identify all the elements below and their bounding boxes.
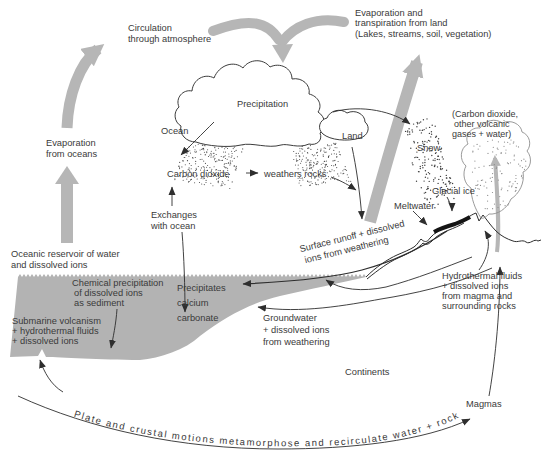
stipple-dot [430, 136, 431, 137]
stipple-dot [211, 154, 212, 155]
arrow-ocean-to-atmosphere [67, 49, 98, 128]
stipple-dot [216, 161, 217, 162]
stipple-dot [343, 173, 344, 174]
stipple-dot [434, 158, 435, 159]
stipple-dot [512, 183, 513, 184]
stipple-dot [320, 149, 321, 150]
stipple-dot [433, 180, 434, 181]
stipple-dot [424, 156, 425, 157]
stipple-dot [224, 148, 225, 149]
stipple-dot [494, 164, 495, 165]
stipple-dot [179, 162, 180, 163]
label-submarine-volcanism: Submarine volcanism [12, 316, 101, 326]
stipple-dot [424, 159, 425, 160]
stipple-dot [299, 159, 300, 160]
stipple-dot [485, 208, 486, 209]
stipple-dot [307, 180, 308, 181]
stipple-dot [299, 180, 300, 181]
stipple-dot [429, 140, 430, 141]
stipple-dot [325, 148, 326, 149]
stipple-dot [345, 166, 346, 167]
stipple-dot [514, 155, 515, 156]
stipple-dot [439, 163, 440, 164]
stipple-dot [449, 181, 450, 182]
stipple-dot [475, 188, 476, 189]
stipple-dot [223, 183, 224, 184]
stipple-dot [225, 155, 226, 156]
stipple-dot [350, 181, 351, 182]
stipple-dot [439, 159, 440, 160]
stipple-dot [473, 145, 474, 146]
stipple-dot [429, 127, 430, 128]
stipple-dot [317, 179, 318, 180]
stipple-dot [409, 134, 410, 135]
stipple-dot [487, 141, 488, 142]
stipple-dot [207, 149, 208, 150]
label-evap-transpiration-3: (Lakes, streams, soil, vegetation) [355, 29, 491, 39]
stipple-dot [419, 130, 420, 131]
stipple-dot [498, 141, 499, 142]
stipple-dot [487, 195, 488, 196]
arrow-hydrothermal-to-vent [479, 231, 488, 270]
stipple-dot [429, 173, 430, 174]
stipple-dot [203, 161, 204, 162]
stipple-dot [227, 159, 228, 160]
stipple-dot [321, 182, 322, 183]
stipple-dot [234, 158, 235, 159]
stipple-dot [496, 167, 497, 168]
arrow-meltwater [413, 211, 427, 225]
stipple-dot [234, 165, 235, 166]
stipple-dot [507, 190, 508, 191]
label-hydrothermal-4: surrounding rocks [442, 301, 516, 311]
stipple-dot [333, 165, 334, 166]
stipple-dot [493, 147, 494, 148]
stipple-dot [313, 155, 314, 156]
stipple-dot [194, 151, 195, 152]
stipple-dot [346, 170, 347, 171]
stipple-dot [422, 129, 423, 130]
stipple-dot [315, 184, 316, 185]
stipple-dot [315, 158, 316, 159]
stipple-dot [221, 156, 222, 157]
stipple-dot [312, 154, 313, 155]
label-oceanic-reservoir-2: and dissolved ions [11, 260, 88, 270]
stipple-dot [515, 191, 516, 192]
stipple-dot [501, 173, 502, 174]
stipple-dot [189, 181, 190, 182]
stipple-dot [437, 141, 438, 142]
stipple-dot [186, 153, 187, 154]
label-land: Land [342, 131, 363, 141]
arrow-atmosphere-branch-right [282, 20, 344, 42]
stipple-dot [200, 149, 201, 150]
stipple-dot [224, 163, 225, 164]
stipple-dot [505, 153, 506, 154]
stipple-dot [323, 150, 324, 151]
label-precipitates-3: carbonate [177, 313, 218, 323]
stipple-dot [515, 181, 516, 182]
stipple-dot [215, 150, 216, 151]
arrow-atmosphere-branch-left [213, 23, 279, 40]
stipple-dot [339, 151, 340, 152]
stipple-dot [417, 157, 418, 158]
stipple-dot [338, 161, 339, 162]
stipple-dot [497, 207, 498, 208]
stipple-dot [434, 165, 435, 166]
stipple-dot [189, 163, 190, 164]
stipple-dot [501, 189, 502, 190]
stipple-dot [208, 156, 209, 157]
label-plate-motions: Plate and crustal motions metamorphose a… [73, 408, 461, 448]
stipple-dot [302, 149, 303, 150]
stipple-dot [420, 166, 421, 167]
stipple-dot [293, 151, 294, 152]
stipple-dot [317, 161, 318, 162]
stipple-dot [310, 185, 311, 186]
stipple-dot [228, 153, 229, 154]
stipple-dot [423, 180, 424, 181]
stipple-dot [348, 181, 349, 182]
stipple-dot [313, 166, 314, 167]
stipple-dot [492, 168, 493, 169]
stipple-dot [301, 148, 302, 149]
stipple-dot [310, 165, 311, 166]
stipple-dot [429, 181, 430, 182]
stipple-dot [331, 154, 332, 155]
